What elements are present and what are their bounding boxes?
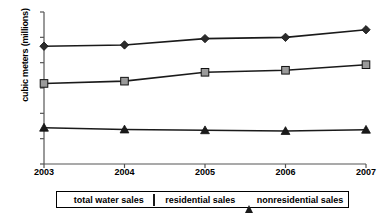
legend-label: total water sales — [74, 195, 144, 205]
chart-legend: total water sales residential sales nonr… — [56, 191, 349, 208]
legend-label: nonresidential sales — [257, 195, 344, 205]
diamond-marker-icon — [201, 34, 209, 42]
y-axis-title: cubic meters (millions) — [20, 0, 30, 135]
line-chart: cubic meters (millions) 6050403020100 20… — [0, 0, 383, 217]
triangle-marker-icon — [245, 195, 254, 204]
x-tick-label: 2006 — [266, 168, 306, 177]
square-marker-icon — [40, 80, 48, 88]
axes-group — [40, 12, 366, 168]
plot-area: 6050403020100 20032004200520062007 — [44, 12, 366, 164]
square-marker-icon — [282, 66, 290, 74]
diamond-marker-icon — [281, 33, 289, 41]
legend-item-nonresidential-sales: nonresidential sales — [245, 195, 344, 205]
series-group — [40, 26, 371, 135]
legend-item-residential-sales: residential sales — [153, 195, 235, 205]
legend-label: residential sales — [165, 195, 235, 205]
legend-item-total-water-sales: total water sales — [62, 195, 144, 205]
square-marker-icon — [362, 61, 370, 69]
square-marker-icon — [153, 195, 162, 204]
x-tick-label: 2007 — [346, 168, 383, 177]
x-tick-label: 2005 — [185, 168, 225, 177]
diamond-marker-icon — [362, 26, 370, 34]
chart-canvas — [44, 12, 366, 164]
diamond-marker-icon — [120, 41, 128, 49]
square-marker-icon — [201, 68, 209, 76]
x-tick-label: 2004 — [105, 168, 145, 177]
diamond-marker-icon — [40, 42, 48, 50]
square-marker-icon — [121, 77, 129, 85]
diamond-marker-icon — [62, 195, 71, 204]
x-tick-label: 2003 — [24, 168, 64, 177]
